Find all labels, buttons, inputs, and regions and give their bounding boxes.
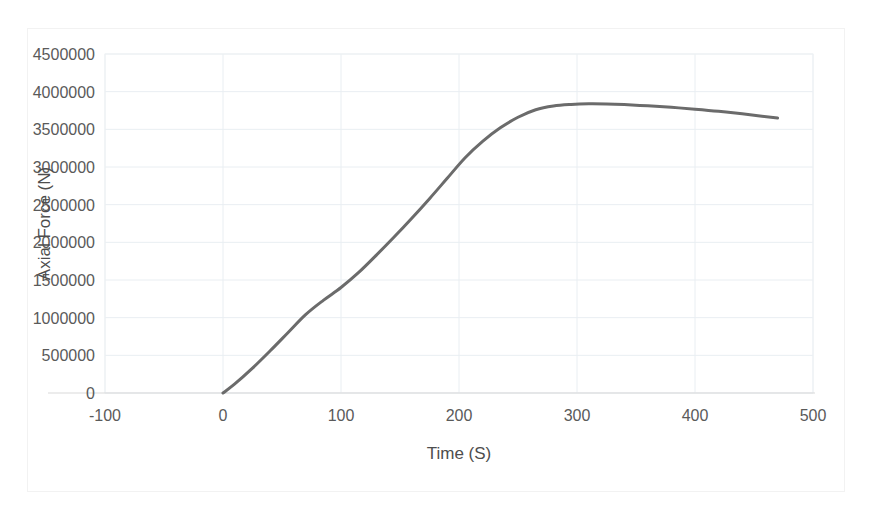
- y-tick-label: 4000000: [33, 84, 95, 101]
- line-chart: 0500000100000015000002000000250000030000…: [28, 29, 846, 493]
- y-tick-label: 0: [86, 385, 95, 402]
- x-tick-label: 0: [219, 407, 228, 424]
- y-tick-label: 3500000: [33, 121, 95, 138]
- y-tick-label: 4500000: [33, 46, 95, 63]
- x-tick-label: 400: [682, 407, 709, 424]
- data-series-line: [223, 104, 778, 393]
- x-tick-label: -100: [89, 407, 121, 424]
- chart-frame: 0500000100000015000002000000250000030000…: [27, 28, 845, 492]
- x-tick-label: 200: [446, 407, 473, 424]
- y-axis-title: Axial Force (N): [35, 167, 54, 280]
- x-tick-label: 100: [328, 407, 355, 424]
- x-axis-title: Time (S): [427, 444, 492, 463]
- y-tick-label: 500000: [42, 347, 95, 364]
- x-tick-label: 500: [800, 407, 827, 424]
- x-tick-label: 300: [564, 407, 591, 424]
- y-tick-label: 1000000: [33, 310, 95, 327]
